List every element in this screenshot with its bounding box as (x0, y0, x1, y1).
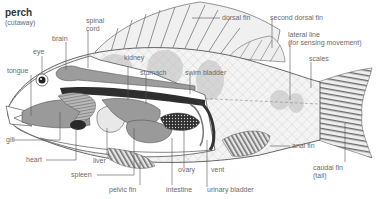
label-stomach: stomach (140, 69, 166, 77)
label-caudal-fin: caudal fin (tail) (313, 164, 343, 180)
label-kidney: kidney (124, 54, 144, 62)
heart-shape (70, 120, 86, 130)
label-spinal-cord: spinal cord (86, 17, 104, 33)
label-scales: scales (309, 55, 329, 63)
label-tongue: tongue (7, 67, 28, 75)
label-brain: brain (52, 35, 68, 43)
label-heart: heart (26, 156, 42, 164)
label-intestine: intestine (166, 186, 192, 194)
label-dorsal-fin: dorsal fin (222, 14, 250, 22)
label-pelvic-fin: pelvic fin (109, 186, 136, 194)
label-anal-fin: anal fin (292, 142, 315, 150)
label-vent: vent (211, 166, 224, 174)
label-lateral-line: lateral line (for sensing movement) (288, 31, 362, 47)
label-gill: gill (6, 136, 15, 144)
label-swim-bladder: swim bladder (185, 69, 226, 77)
label-eye: eye (33, 48, 44, 56)
label-liver: liver (93, 157, 106, 165)
eye-icon (36, 74, 48, 86)
label-urinary-bladder: urinary bladder (207, 186, 254, 194)
label-ovary: ovary (178, 166, 195, 174)
label-spleen: spleen (71, 171, 92, 179)
label-second-dorsal-fin: second dorsal fin (270, 14, 323, 22)
